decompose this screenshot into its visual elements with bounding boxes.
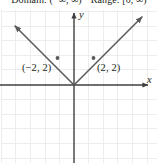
curve-right-branch [74,17,142,85]
x-axis-label: x [147,74,152,85]
range-text: Range: [0, ∞) [91,0,147,5]
data-points [56,56,96,60]
curve-absolute-value [15,17,142,85]
domain-text: Domain: (−∞, ∞) [11,0,82,5]
axes [0,13,148,163]
absolute-value-graph-figure: Domain: (−∞, ∞)Range: [0, ∞) [0,0,158,165]
figure-caption: Domain: (−∞, ∞)Range: [0, ∞) [0,0,158,8]
y-axis-label: y [79,9,84,20]
point-label-left: (−2, 2) [22,62,51,73]
point-marker-left [56,56,60,60]
caption-text-row: Domain: (−∞, ∞)Range: [0, ∞) [0,0,158,5]
point-marker-right [92,56,96,60]
grid-lines [1,10,157,163]
point-label-right: (2, 2) [97,62,120,73]
plot-canvas [0,0,158,165]
